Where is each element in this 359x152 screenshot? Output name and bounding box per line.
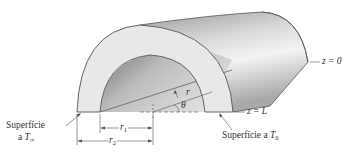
half-cylinder-diagram: Superfície a T∞ Superfície a T0 z = L z …	[0, 0, 359, 152]
right-surface-prefix: Superfície a	[222, 130, 270, 140]
r2-arrow-right	[148, 140, 153, 143]
r2-sub: 2	[113, 139, 116, 146]
r-label: r	[186, 88, 190, 98]
z-L-label: z = L	[247, 107, 267, 117]
left-surface-prefix: a	[18, 132, 25, 142]
r2-arrow-left	[77, 140, 82, 143]
r1-label: r1	[119, 123, 128, 134]
theta-label: θ	[181, 101, 186, 111]
right-surface-sub: 0	[275, 134, 278, 141]
right-surface-label: Superfície a T0	[222, 131, 279, 142]
left-surface-label-line1: Superfície	[6, 121, 45, 131]
left-surface-sub: ∞	[30, 136, 35, 143]
z-0-label: z = 0	[322, 57, 342, 67]
left-surface-label-line2: a T∞	[18, 133, 35, 144]
r2-label: r2	[108, 136, 117, 147]
r1-arrow-left	[100, 127, 105, 130]
r1-arrow-right	[148, 127, 153, 130]
r1-sub: 1	[124, 126, 127, 133]
diagram-svg	[0, 0, 359, 152]
